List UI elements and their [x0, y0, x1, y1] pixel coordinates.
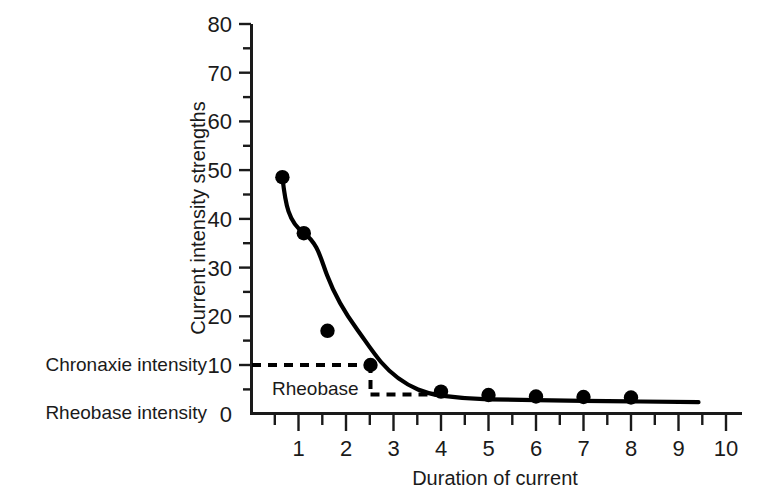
x-axis-title: Duration of current: [412, 467, 578, 488]
data-point-marker: [624, 390, 638, 404]
x-tick-label-1: 1: [292, 436, 304, 461]
y-tick-label-50: 50: [208, 158, 232, 183]
data-point-marker: [529, 389, 543, 403]
y-tick-label-80: 80: [208, 12, 232, 37]
y-tick-label-0: 0: [220, 402, 232, 427]
x-tick-label-5: 5: [482, 436, 494, 461]
data-point-marker: [275, 170, 289, 184]
strength-duration-chart: 80 70 60 50 40 30 20 10 0 1 2 3: [0, 0, 765, 488]
data-point-marker: [576, 390, 590, 404]
x-tick-label-8: 8: [625, 436, 637, 461]
data-point-marker: [481, 388, 495, 402]
x-tick-label-7: 7: [577, 436, 589, 461]
y-tick-label-20: 20: [208, 304, 232, 329]
x-tick-label-6: 6: [530, 436, 542, 461]
data-point-marker: [320, 324, 334, 338]
x-tick-label-4: 4: [435, 436, 447, 461]
y-tick-label-10: 10: [208, 353, 232, 378]
data-point-marker: [434, 384, 448, 398]
y-tick-label-60: 60: [208, 109, 232, 134]
y-tick-label-70: 70: [208, 61, 232, 86]
rheobase-intensity-label: Rheobase intensity: [45, 402, 207, 423]
x-tick-label-2: 2: [340, 436, 352, 461]
y-tick-label-40: 40: [208, 207, 232, 232]
chronaxie-intensity-label: Chronaxie intensity: [45, 354, 207, 375]
rheobase-inline-label: Rheobase: [272, 378, 359, 399]
y-axis-tick-labels: 80 70 60 50 40 30 20 10 0: [208, 12, 232, 427]
data-point-marker: [363, 358, 377, 372]
data-point-marker: [297, 226, 311, 240]
x-tick-label-9: 9: [672, 436, 684, 461]
y-tick-label-30: 30: [208, 256, 232, 281]
x-tick-label-3: 3: [387, 436, 399, 461]
y-axis-title: Current intensity strengths: [187, 101, 209, 334]
x-tick-label-10: 10: [714, 436, 738, 461]
